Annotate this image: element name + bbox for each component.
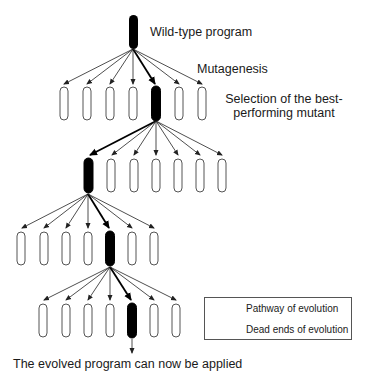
generation-1 — [60, 86, 206, 121]
legend: Pathway of evolution Dead ends of evolut… — [204, 297, 352, 340]
mutagenesis-arrows-1 — [64, 49, 202, 84]
wild-type-capsule — [129, 15, 138, 49]
mutagenesis-arrows-3 — [22, 194, 154, 228]
legend-item-pathway: Pathway of evolution — [205, 303, 351, 317]
mutagenesis-label: Mutagenesis — [197, 62, 268, 76]
selection-label-line1: Selection of the best- — [218, 92, 350, 106]
legend-pathway-label: Pathway of evolution — [246, 303, 338, 315]
generation-4 — [39, 303, 180, 338]
legend-dead-ends-label: Dead ends of evolution — [246, 324, 348, 336]
mutagenesis-arrows-4 — [44, 267, 176, 300]
wild-type-label: Wild-type program — [150, 25, 252, 39]
selection-label-line2: performing mutant — [218, 106, 350, 120]
generation-2 — [84, 158, 226, 193]
result-label: The evolved program can now be applied — [13, 357, 242, 371]
generation-3 — [17, 231, 158, 266]
legend-item-dead-ends: Dead ends of evolution — [205, 324, 351, 338]
mutagenesis-arrows-2 — [90, 121, 222, 155]
selection-label: Selection of the best- performing mutant — [218, 92, 350, 120]
